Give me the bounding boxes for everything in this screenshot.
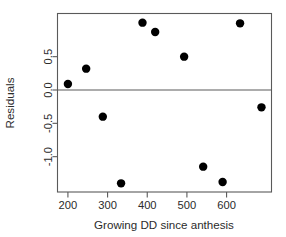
x-tick-label: 400 xyxy=(138,199,157,211)
data-point xyxy=(180,52,188,60)
x-tick-label: 200 xyxy=(59,199,78,211)
y-axis-title: Residuals xyxy=(3,77,16,128)
data-point xyxy=(99,112,107,120)
data-point xyxy=(64,80,72,88)
x-tick-label: 300 xyxy=(98,199,117,211)
x-axis-title: Growing DD since anthesis xyxy=(94,218,234,231)
data-point xyxy=(236,19,244,27)
residual-scatter-plot: 200300400500600 0.50.0-0.5-1.0 Growing D… xyxy=(0,0,286,237)
data-point xyxy=(199,162,207,170)
data-point xyxy=(117,179,125,187)
y-tick-label: -0.5 xyxy=(42,114,54,133)
y-tick-label: 0.0 xyxy=(42,82,54,98)
data-point xyxy=(82,64,90,72)
x-tick-label: 600 xyxy=(217,199,236,211)
y-tick-label: -1.0 xyxy=(42,147,54,166)
y-tick-label: 0.5 xyxy=(42,49,54,65)
x-tick-label: 500 xyxy=(178,199,197,211)
data-point xyxy=(151,28,159,36)
data-point xyxy=(218,178,226,186)
data-point xyxy=(138,18,146,26)
plot-canvas: 200300400500600 0.50.0-0.5-1.0 Growing D… xyxy=(0,0,286,237)
data-point xyxy=(257,103,265,111)
